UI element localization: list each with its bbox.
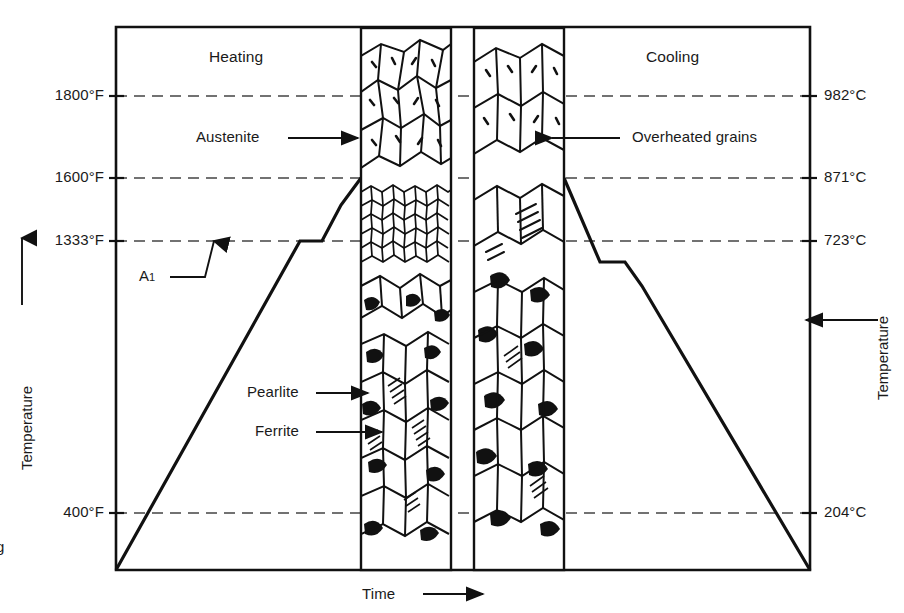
tick-label-400f: 400°F (0, 503, 104, 520)
clipped-caption-fragment: g (0, 538, 4, 555)
a1-leader (170, 241, 214, 277)
annotation-austenite: Austenite (196, 128, 259, 145)
tick-label-204c: 204°C (824, 503, 866, 520)
annotation-pearlite: Pearlite (247, 383, 299, 400)
axis-label-time: Time (362, 585, 395, 602)
annotation-overheated-grains: Overheated grains (632, 128, 757, 145)
annotation-a1: A1 (139, 267, 155, 284)
annotation-ferrite: Ferrite (255, 422, 299, 439)
a1-subscript: 1 (149, 271, 155, 283)
figure-canvas: 1800°F 1600°F 1333°F 400°F 982°C 871°C 7… (0, 0, 904, 613)
micrograph-strip-heating (361, 28, 451, 570)
axis-label-temperature-right: Temperature (874, 316, 891, 400)
a1-letter: A (139, 267, 149, 284)
temperature-curve (116, 178, 810, 570)
tick-label-982c: 982°C (824, 86, 866, 103)
axis-ticks (109, 96, 817, 513)
region-label-heating: Heating (209, 48, 263, 66)
axis-label-temperature-left: Temperature (18, 386, 35, 470)
tick-label-723c: 723°C (824, 231, 866, 248)
tick-label-1600f: 1600°F (0, 168, 104, 185)
tick-label-871c: 871°C (824, 168, 866, 185)
diagram-svg (0, 0, 904, 613)
region-label-cooling: Cooling (646, 48, 699, 66)
micrograph-strip-cooling (474, 28, 564, 570)
tick-label-1800f: 1800°F (0, 86, 104, 103)
plot-frame (116, 27, 810, 570)
tick-label-1333f: 1333°F (0, 231, 104, 248)
guide-lines (116, 96, 810, 513)
